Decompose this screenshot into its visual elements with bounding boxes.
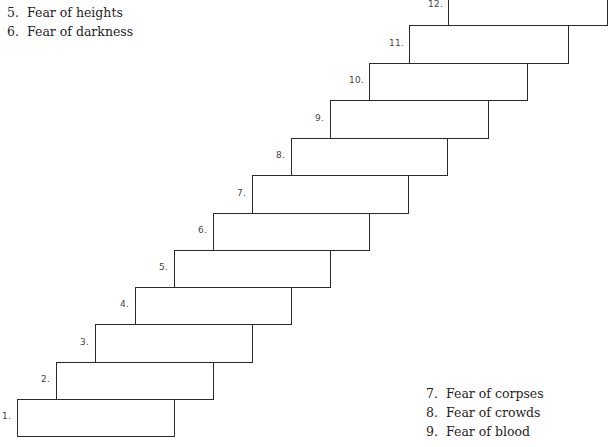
ladder-step-box — [448, 0, 608, 26]
ladder-step-box — [252, 175, 409, 214]
fear-text: Fear of blood — [446, 424, 530, 439]
ladder-step-box — [291, 138, 448, 176]
fear-number: 5. — [7, 3, 27, 22]
ladder-step-box — [174, 250, 331, 288]
fear-item: 7.Fear of corpses — [426, 384, 544, 403]
ladder-step-label: 8. — [276, 150, 285, 160]
ladder-step-label: 3. — [80, 337, 89, 347]
fear-item: 6.Fear of darkness — [7, 22, 133, 41]
ladder-step-box — [135, 287, 292, 325]
fear-item: 8.Fear of crowds — [426, 403, 544, 422]
ladder-step-label: 6. — [198, 225, 207, 235]
ladder-step-label: 4. — [120, 299, 129, 309]
ladder-step-label: 2. — [41, 374, 50, 384]
ladder-step-label: 7. — [237, 188, 246, 198]
fear-number: 8. — [426, 403, 446, 422]
ladder-step-label: 5. — [159, 262, 168, 272]
fear-item: 9.Fear of blood — [426, 422, 544, 441]
fear-number: 9. — [426, 422, 446, 441]
fear-list-top: 5.Fear of heights 6.Fear of darkness — [7, 3, 133, 41]
fear-number: 7. — [426, 384, 446, 403]
ladder-step-box — [369, 63, 528, 101]
ladder-step-box — [213, 213, 370, 251]
ladder-step-label: 12. — [428, 0, 443, 9]
fear-list-bottom: 7.Fear of corpses 8.Fear of crowds 9.Fea… — [426, 384, 544, 441]
ladder-step-box — [409, 25, 569, 64]
ladder-step-box — [17, 399, 175, 437]
fear-text: Fear of darkness — [27, 24, 133, 39]
ladder-step-box — [95, 324, 253, 363]
ladder-step-label: 1. — [2, 411, 11, 421]
fear-text: Fear of crowds — [446, 405, 541, 420]
ladder-step-box — [330, 100, 489, 139]
fear-text: Fear of heights — [27, 5, 123, 20]
fear-number: 6. — [7, 22, 27, 41]
ladder-step-box — [56, 362, 214, 400]
ladder-step-label: 11. — [389, 38, 404, 48]
ladder-step-label: 9. — [315, 113, 324, 123]
ladder-step-label: 10. — [349, 75, 364, 85]
fear-item: 5.Fear of heights — [7, 3, 133, 22]
fear-text: Fear of corpses — [446, 386, 544, 401]
